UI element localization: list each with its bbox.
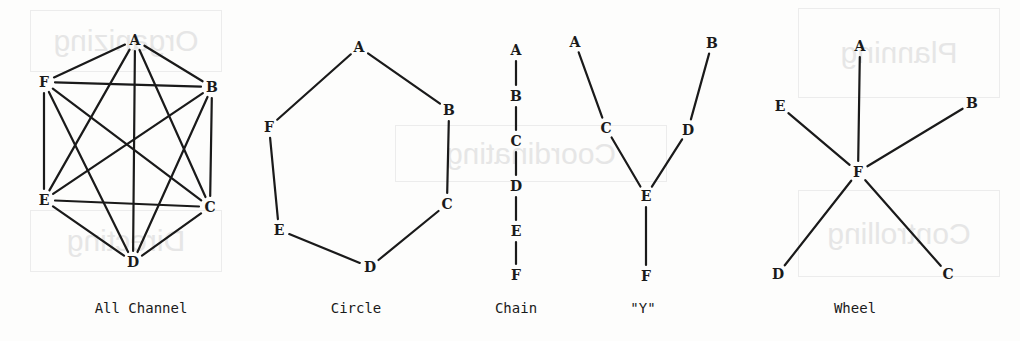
caption-circle: Circle — [331, 300, 382, 316]
nodes-all-channel: ABCDEF — [39, 32, 218, 270]
network-diagrams: ABCDEFABCDEFABCDEFABCDEFABCDEF — [0, 0, 1020, 341]
node-y-d: D — [682, 122, 694, 138]
figure-page: Organizing Directing Coordinating Planni… — [0, 0, 1020, 341]
node-all-channel-b: B — [206, 79, 218, 95]
node-chain-e: E — [511, 223, 522, 239]
edge-y-d-e — [652, 139, 682, 186]
edge-all-channel-b-d — [138, 97, 208, 252]
node-wheel-e: E — [775, 98, 786, 114]
edge-y-b-d — [691, 54, 709, 120]
edge-circle-b-c — [447, 121, 449, 193]
node-circle-a: A — [353, 39, 366, 55]
edge-all-channel-c-e — [55, 201, 199, 207]
edge-y-c-e — [612, 138, 641, 187]
edge-y-a-c — [579, 52, 603, 117]
edge-all-channel-b-f — [55, 82, 201, 86]
edge-circle-e-f — [270, 138, 278, 219]
edge-all-channel-a-f — [54, 45, 125, 78]
network-wheel — [785, 57, 963, 266]
edge-circle-a-b — [368, 53, 440, 103]
node-chain-d: D — [510, 178, 522, 194]
node-chain-b: B — [510, 88, 522, 104]
edge-wheel-f-a — [858, 57, 860, 161]
node-chain-a: A — [510, 42, 523, 58]
node-chain-c: C — [510, 133, 521, 149]
nodes-circle: ABCDEF — [264, 39, 455, 275]
node-chain-f: F — [511, 267, 521, 283]
node-wheel-f: F — [853, 164, 863, 180]
edge-circle-d-e — [289, 234, 360, 263]
edge-wheel-f-e — [788, 113, 849, 165]
edge-wheel-f-c — [865, 180, 940, 266]
edge-all-channel-b-c — [210, 98, 212, 196]
edges-layer — [44, 45, 963, 266]
node-y-c: C — [600, 120, 611, 136]
node-circle-c: C — [441, 196, 452, 212]
node-y-f: F — [641, 268, 651, 284]
network-y — [579, 52, 709, 265]
node-all-channel-c: C — [204, 199, 215, 215]
nodes-wheel: ABCDEF — [772, 38, 978, 282]
caption-all-channel: All Channel — [95, 300, 188, 316]
node-y-b: B — [706, 35, 718, 51]
node-wheel-a: A — [854, 38, 867, 54]
edge-circle-f-a — [277, 54, 351, 119]
node-wheel-c: C — [942, 266, 953, 282]
node-all-channel-f: F — [39, 74, 49, 90]
node-circle-f: F — [264, 119, 274, 135]
edge-all-channel-c-d — [142, 213, 201, 255]
caption-chain: Chain — [495, 300, 537, 316]
node-y-a: A — [569, 34, 582, 50]
edge-all-channel-d-e — [53, 206, 124, 255]
network-circle — [270, 53, 449, 263]
node-y-e: E — [641, 188, 652, 204]
nodes-y: ABCDEF — [569, 34, 719, 284]
node-wheel-b: B — [966, 95, 978, 111]
edge-wheel-f-d — [785, 181, 851, 266]
node-wheel-d: D — [772, 266, 784, 282]
network-all-channel — [44, 45, 212, 256]
node-all-channel-a: A — [129, 32, 142, 48]
node-all-channel-d: D — [127, 254, 139, 270]
edge-all-channel-a-b — [144, 46, 202, 82]
node-all-channel-e: E — [39, 192, 50, 208]
node-circle-d: D — [364, 259, 376, 275]
caption-wheel: Wheel — [834, 300, 876, 316]
node-circle-e: E — [274, 222, 285, 238]
edge-circle-c-d — [379, 211, 439, 260]
edge-wheel-f-b — [867, 109, 962, 167]
node-circle-b: B — [443, 102, 455, 118]
caption-y: "Y" — [630, 300, 655, 316]
